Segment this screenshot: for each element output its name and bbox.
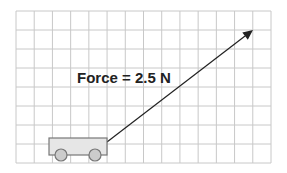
force-diagram: [0, 0, 287, 173]
cart: [49, 138, 107, 161]
wheel-2: [89, 149, 101, 161]
arrowhead-icon: [242, 30, 253, 40]
wheel-1: [55, 149, 67, 161]
force-label: Force = 2.5 N: [77, 69, 171, 86]
